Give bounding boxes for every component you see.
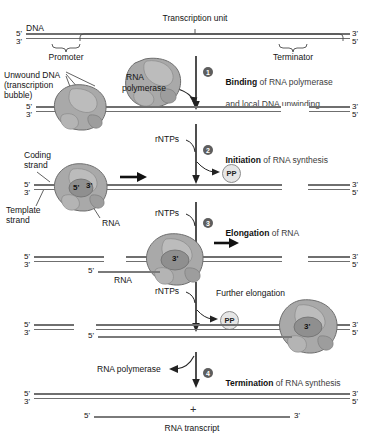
unwound-dna-label-line3: bubble) [4, 90, 32, 100]
template-strand-label-line2: strand [6, 215, 30, 225]
step-1-bold: Binding [225, 77, 257, 87]
dna-duplex-row5 [34, 393, 350, 400]
step-2-rest1: of RNA synthesis [261, 155, 328, 165]
transcription-figure: DNA Transcription unit 5' 3' 3' 5' Promo… [0, 0, 366, 442]
step-4-rest1: of RNA synthesis [273, 378, 340, 388]
row5-right-5prime: 5' [352, 398, 358, 406]
transcript-3prime: 3' [294, 412, 300, 420]
rna-strand-step3 [98, 271, 160, 273]
dna-label: DNA [26, 23, 44, 33]
unwound-dna-label-line1: Unwound DNA [4, 70, 60, 80]
row1-left-3prime: 3' [26, 111, 32, 119]
rna-polymerase-bound-step1 [48, 83, 112, 135]
rna-polymerase-release-label: RNA polymerase [97, 364, 161, 374]
row3-right-5prime: 5' [352, 261, 358, 269]
step4-rna-5prime: 5' [88, 332, 94, 340]
row2-left-3prime: 3' [24, 189, 30, 197]
step2-active-5prime: 5' [73, 184, 79, 192]
rntps-label-step3: rNTPs [155, 208, 179, 218]
row2-right-5prime: 5' [352, 189, 358, 197]
step3-active-3prime: 3' [172, 255, 178, 263]
row4-right-5prime: 5' [352, 329, 358, 337]
rna-label-step3: RNA [114, 275, 132, 285]
rna-strand-step4 [98, 336, 292, 338]
rntps-label-step4: rNTPs [155, 286, 179, 296]
bubble-gap-row1 [281, 106, 309, 114]
terminator-label: Terminator [263, 52, 323, 63]
step-3-number: 3 [203, 218, 213, 228]
row4-left-3prime: 3' [24, 329, 30, 337]
dna-duplex-row0 [26, 33, 350, 40]
coding-strand-label-line2: strand [24, 160, 48, 170]
step-2-text: Initiation of RNA synthesis [216, 144, 328, 177]
step-2-number: 2 [203, 145, 213, 155]
step-1-number: 1 [203, 67, 213, 77]
transcription-unit-label: Transcription unit [130, 13, 260, 24]
row0-right-5prime: 5' [352, 38, 358, 46]
step-1-rest1: of RNA polymerase [257, 77, 333, 87]
template-strand-label-line1: Template [6, 205, 41, 215]
step-2-bold: Initiation [225, 155, 260, 165]
row3-left-3prime: 3' [24, 261, 30, 269]
rntps-label-step2: rNTPs [155, 134, 179, 144]
step-3-rest1: of RNA [269, 228, 299, 238]
promoter-label: Promoter [36, 52, 96, 63]
step-4-bold: Termination [225, 378, 273, 388]
step2-active-3prime: 3' [86, 182, 92, 190]
bubble-gap-row3a [104, 256, 126, 264]
rna-transcript-label: RNA transcript [132, 423, 252, 434]
rna-polymerase-step2 [48, 162, 114, 216]
bubble-gap-row3b [282, 256, 308, 264]
row0-left-3prime: 3' [16, 38, 22, 46]
rna-polymerase-label-line2: polymerase [122, 83, 166, 93]
coding-strand-label-line1: Coding [24, 150, 51, 160]
step-3-bold: Elongation [225, 228, 269, 238]
plus-sign: + [190, 403, 196, 415]
rna-transcript-strand [94, 416, 290, 418]
unwound-dna-label-line2: (transcription [4, 80, 53, 90]
step4-active-3prime: 3' [304, 323, 310, 331]
further-elongation-label: Further elongation [216, 288, 285, 298]
rna-polymerase-label-line1: RNA [126, 72, 144, 82]
row5-left-3prime: 3' [24, 398, 30, 406]
step3-rna-5prime: 5' [88, 267, 94, 275]
step-3-text: Elongation of RNA [216, 217, 299, 250]
bubble-gap-row2 [282, 184, 308, 192]
row1-right-5prime: 5' [352, 111, 358, 119]
step-4-number: 4 [203, 368, 213, 378]
rna-label-step2: RNA [102, 218, 120, 228]
transcript-5prime: 5' [84, 412, 90, 420]
